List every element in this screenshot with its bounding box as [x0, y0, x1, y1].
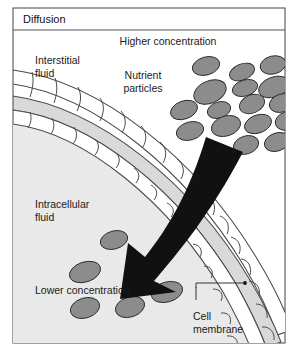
label-intracellular-fluid-line2: fluid — [35, 211, 54, 223]
label-interstitial-fluid-line2: fluid — [35, 67, 54, 79]
label-intracellular-fluid-line1: Intracellular — [35, 198, 90, 210]
label-lower-concentration: Lower concentration — [35, 284, 130, 296]
label-nutrient-particles-line2: particles — [123, 82, 162, 94]
diffusion-diagram: Diffusion — [0, 0, 298, 351]
label-cell-membrane-line2: membrane — [193, 323, 243, 335]
leader-endpoint-dot — [243, 281, 247, 285]
label-higher-concentration: Higher concentration — [120, 35, 217, 47]
diffusion-figure: Diffusion — [0, 0, 298, 351]
page-title: Diffusion — [23, 13, 66, 25]
label-cell-membrane-line1: Cell — [193, 310, 211, 322]
label-interstitial-fluid-line1: Interstitial — [35, 54, 80, 66]
label-nutrient-particles-line1: Nutrient — [125, 69, 162, 81]
